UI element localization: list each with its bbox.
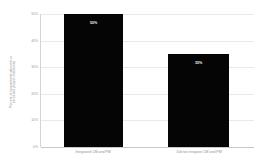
y-tick-label-0: 0% <box>22 145 38 149</box>
bar-chart: Percent of respondents who met or exceed… <box>0 0 263 166</box>
y-axis-title: Percent of respondents who met or exceed… <box>6 14 20 150</box>
y-tick-label-30: 30% <box>22 65 38 69</box>
y-axis-title-line-2: exceeded project milestones <box>13 61 16 103</box>
plot-area: 50% 35% <box>40 14 254 147</box>
y-tick-label-40: 40% <box>22 39 38 43</box>
x-tick-label-2: Did not integrate CM and PM <box>152 150 246 154</box>
gridline-baseline <box>41 147 254 148</box>
x-axis-tick-labels: Integrated CM and PM Did not integrate C… <box>40 150 254 162</box>
y-tick-label-10: 10% <box>22 118 38 122</box>
bar-integrated-cm-pm[interactable]: 50% <box>64 14 123 147</box>
y-axis-tick-labels: 50% 40% 30% 20% 10% 0% <box>22 14 38 147</box>
y-tick-label-50: 50% <box>22 12 38 16</box>
bar-value-label-1: 50% <box>64 21 123 25</box>
bar-did-not-integrate-cm-pm[interactable]: 35% <box>168 54 229 147</box>
bar-value-label-2: 35% <box>168 61 229 65</box>
y-tick-label-20: 20% <box>22 92 38 96</box>
x-tick-label-1: Integrated CM and PM <box>50 150 136 154</box>
